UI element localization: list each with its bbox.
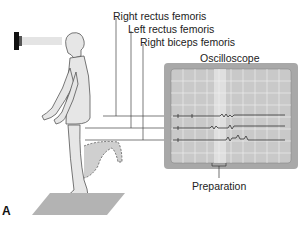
label-left-rectus-femoris: Left rectus femoris	[128, 24, 214, 35]
oscilloscope	[164, 63, 298, 178]
label-right-rectus-femoris: Right rectus femoris	[113, 11, 206, 22]
label-right-biceps-femoris: Right biceps femoris	[140, 37, 235, 48]
panel-label: A	[2, 204, 11, 218]
visual-target-icon	[14, 32, 62, 50]
label-preparation: Preparation	[192, 181, 246, 192]
label-oscilloscope: Oscilloscope	[200, 53, 260, 64]
force-plate	[32, 193, 125, 215]
